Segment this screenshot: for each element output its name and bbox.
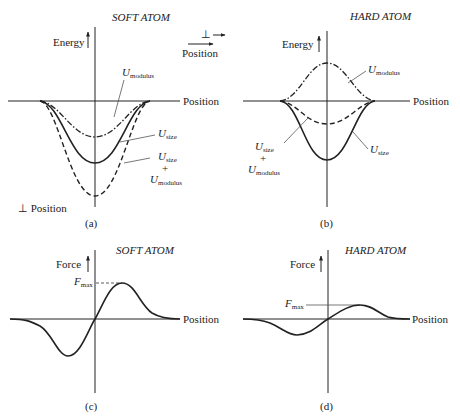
- legend-position-label: Position: [182, 47, 219, 59]
- panel-c-caption: (c): [85, 400, 98, 413]
- panel-a-soft-atom-energy: SOFT ATOM Energy Position Umodulus Usize…: [8, 11, 220, 230]
- perp-symbol: ⊥: [201, 28, 211, 40]
- panel-b-caption: (b): [320, 217, 333, 230]
- panel-a-u-modulus-label: Umodulus: [122, 66, 154, 80]
- panel-d-fmax-label: Fmax: [284, 297, 304, 311]
- panel-b-u-size-leader: [353, 132, 368, 149]
- panel-b-position-label: Position: [413, 95, 450, 107]
- svg-text:Umodulus: Umodulus: [150, 173, 182, 187]
- panel-a-u-modulus-leader: [114, 80, 124, 117]
- panel-d-force-curve: [243, 305, 410, 335]
- panel-a-position-label: Position: [183, 95, 220, 107]
- svg-text:+: +: [162, 162, 168, 174]
- panel-c-soft-atom-force: SOFT ATOM Force Position Fmax (c): [10, 244, 220, 413]
- panel-a-energy-label: Energy: [53, 36, 85, 48]
- direction-legend: ⊥ Position: [182, 28, 225, 59]
- panel-d-force-label: Force: [290, 258, 315, 270]
- panel-c-position-label: Position: [183, 313, 220, 325]
- panel-b-energy-label: Energy: [282, 38, 314, 50]
- panel-d-hard-atom-force: HARD ATOM Force Position Fmax (d): [243, 244, 449, 413]
- panel-a-perp-position-label: ⊥ Position: [18, 202, 67, 214]
- panel-a-u-size-leader: [120, 135, 155, 142]
- panel-b-u-modulus-label: Umodulus: [368, 63, 400, 77]
- panel-b-u-sum-leader: [284, 118, 308, 143]
- panel-d-title: HARD ATOM: [344, 244, 407, 256]
- panel-a-u-sum-leader: [124, 158, 150, 163]
- panel-b-u-size-label: Usize: [370, 143, 389, 157]
- panel-a-u-sum-label: Usize + Umodulus: [150, 150, 182, 187]
- panel-a-caption: (a): [85, 217, 98, 230]
- panel-d-caption: (d): [320, 400, 333, 413]
- panel-b-title: HARD ATOM: [349, 10, 412, 22]
- panel-a-u-size-label: Usize: [158, 127, 177, 141]
- panel-c-title: SOFT ATOM: [116, 244, 175, 256]
- svg-text:+: +: [260, 152, 266, 164]
- panel-b-u-sum-label: Usize + Umodulus: [248, 140, 280, 177]
- panel-a-title: SOFT ATOM: [112, 11, 171, 23]
- panel-b-hard-atom-energy: HARD ATOM Energy Position Umodulus Usize…: [243, 10, 450, 230]
- atom-potential-force-diagram: SOFT ATOM Energy Position Umodulus Usize…: [0, 0, 460, 420]
- panel-d-position-label: Position: [412, 313, 449, 325]
- panel-c-force-label: Force: [56, 258, 81, 270]
- panel-b-u-modulus-leader: [348, 71, 366, 83]
- panel-c-fmax-label: Fmax: [73, 275, 93, 289]
- svg-text:Umodulus: Umodulus: [248, 163, 280, 177]
